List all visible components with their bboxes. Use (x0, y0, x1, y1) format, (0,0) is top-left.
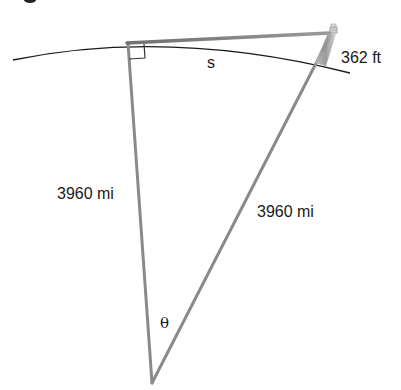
arc-length-label: s (207, 55, 215, 71)
right-radius-label: 3960 mi (257, 204, 314, 220)
lighthouse-icon (329, 24, 338, 33)
left-radius-line (128, 43, 152, 383)
central-angle-label: θ (160, 316, 169, 331)
line-of-sight (127, 33, 330, 43)
tower-height-label: 362 ft (341, 50, 381, 66)
tower-shape (315, 33, 336, 66)
partial-glyph-fragment (24, 0, 36, 3)
earth-surface-arc (13, 47, 350, 73)
left-radius-label: 3960 mi (57, 186, 114, 202)
